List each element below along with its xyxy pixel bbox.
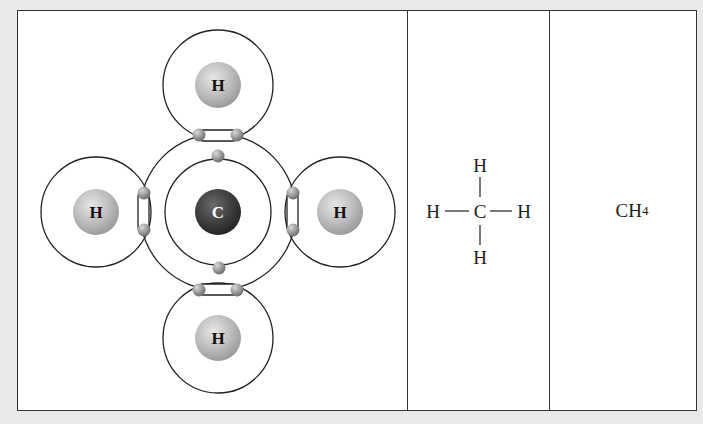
molecular-formula: CH4	[567, 10, 697, 411]
electron-inner	[213, 262, 226, 275]
label-h-bottom: H	[211, 329, 224, 348]
electron-shared	[231, 129, 244, 142]
struct-h-top: H	[473, 155, 487, 176]
structural-formula: H H C H H	[426, 155, 531, 268]
electron-shared	[287, 187, 300, 200]
electron-shared	[193, 284, 206, 297]
formula-base: CH	[616, 200, 642, 222]
electron-shared	[193, 129, 206, 142]
struct-c: C	[474, 201, 487, 222]
electron-shared	[287, 224, 300, 237]
label-h-top: H	[211, 76, 224, 95]
electron-shared	[138, 224, 151, 237]
label-h-left: H	[89, 203, 102, 222]
label-h-right: H	[333, 203, 346, 222]
electron-inner	[212, 150, 225, 163]
label-c: C	[212, 203, 224, 222]
struct-h-right: H	[517, 201, 531, 222]
struct-h-bottom: H	[473, 247, 487, 268]
electron-shared	[138, 187, 151, 200]
electron-shared	[231, 284, 244, 297]
formula-subscript: 4	[642, 203, 649, 219]
struct-h-left: H	[426, 201, 440, 222]
